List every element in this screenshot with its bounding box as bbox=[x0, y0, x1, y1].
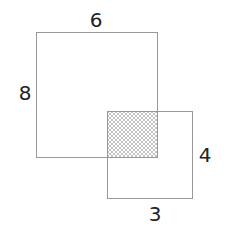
large-width-label: 6 bbox=[90, 8, 103, 32]
small-height-label: 4 bbox=[199, 143, 212, 167]
overlap-diagram: 6 8 4 3 bbox=[0, 0, 225, 233]
small-width-label: 3 bbox=[149, 202, 162, 226]
overlap-region bbox=[107, 111, 158, 157]
large-height-label: 8 bbox=[19, 81, 32, 105]
